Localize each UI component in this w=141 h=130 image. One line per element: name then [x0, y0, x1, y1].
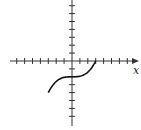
graph [0, 0, 141, 130]
x-axis-label: x [133, 64, 139, 77]
